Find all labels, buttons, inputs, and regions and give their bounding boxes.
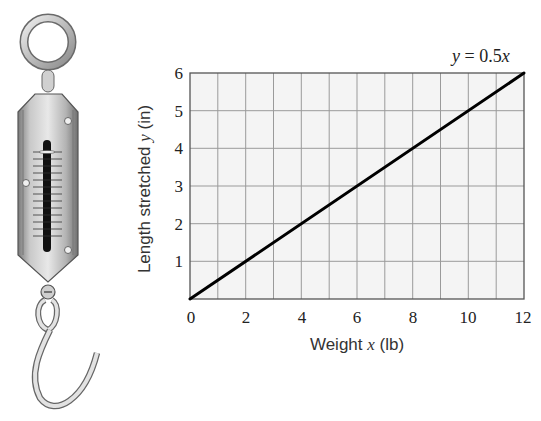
x-tick-2: 2 [242, 309, 251, 326]
ylabel-var: y [135, 134, 154, 142]
y-tick-4: 4 [163, 140, 183, 157]
y-tick-3: 3 [163, 178, 183, 195]
figure: y = 0.5x 6 5 4 3 2 1 0 2 4 6 8 10 12 Wei… [0, 0, 541, 421]
y-tick-2: 2 [163, 215, 183, 232]
x-axis-label: Weight x (lb) [310, 335, 404, 355]
y-tick-6: 6 [163, 65, 183, 82]
annot-var: x [502, 46, 510, 66]
y-tick-1: 1 [163, 253, 183, 270]
x-tick-0: 0 [187, 309, 196, 326]
x-tick-6: 6 [353, 309, 362, 326]
ylabel-suffix: (in) [135, 105, 154, 134]
line-equation-annotation: y = 0.5x [452, 46, 510, 67]
xlabel-prefix: Weight [310, 335, 367, 354]
xlabel-var: x [367, 335, 375, 354]
y-tick-5: 5 [163, 102, 183, 119]
x-tick-12: 12 [515, 309, 532, 326]
annot-eq: = 0.5 [460, 46, 502, 66]
x-tick-4: 4 [298, 309, 307, 326]
xlabel-suffix: (lb) [375, 335, 404, 354]
x-tick-8: 8 [409, 309, 418, 326]
y-axis-label: Length stretched y (in) [135, 105, 155, 273]
ylabel-prefix: Length stretched [135, 142, 154, 273]
annot-lhs: y [452, 46, 460, 66]
x-tick-10: 10 [460, 309, 477, 326]
